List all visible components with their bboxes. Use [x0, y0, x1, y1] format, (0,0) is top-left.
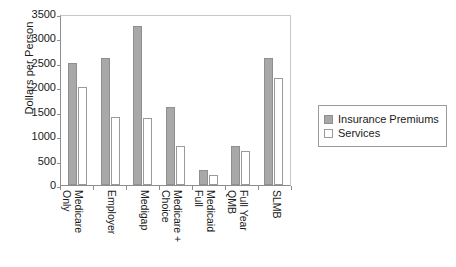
plot-area [60, 15, 291, 186]
legend-swatch-icon-services [324, 129, 333, 138]
x-category-label-line1: Medicaid [205, 190, 217, 267]
bar-group [94, 16, 127, 185]
y-tick-mark [57, 40, 61, 41]
bar-group [159, 16, 192, 185]
x-category-label-line1: Medicare + [172, 190, 184, 267]
x-category-label-line1: Employer [106, 190, 118, 267]
y-tick-mark [57, 114, 61, 115]
bar-services [78, 87, 87, 185]
bar-services [176, 146, 185, 185]
legend-item-services: Services [324, 127, 439, 139]
x-axis-category-labels: MedicareOnlyEmployerMedigapMedicare +Cho… [60, 190, 291, 267]
x-category-label-line2: Full [193, 190, 205, 267]
x-category-label-line2: Only [61, 190, 73, 267]
bar-insurance-premiums [133, 26, 142, 185]
bar-services [241, 151, 250, 185]
bar-group [61, 16, 94, 185]
x-category-label: Medicare +Choice [159, 190, 183, 267]
bar-insurance-premiums [199, 170, 208, 185]
x-category-label: Employer [93, 190, 117, 267]
y-tick-mark [57, 65, 61, 66]
bar-insurance-premiums [264, 58, 273, 185]
y-tick-label: 0 [50, 179, 56, 191]
bar-group [126, 16, 159, 185]
chart-figure: Dollars per Person 050010001500200025003… [0, 0, 456, 267]
y-tick-mark [57, 163, 61, 164]
chart-legend: Insurance Premiums Services [318, 105, 447, 147]
legend-label-services: Services [338, 127, 380, 139]
y-axis-tick-labels: 0500100015002000250030003500 [14, 14, 56, 186]
bar-insurance-premiums [166, 107, 175, 185]
x-category-label-line2: Choice [160, 190, 172, 267]
x-category-label: SLMB [258, 190, 282, 267]
x-category-label-line1: SLMB [271, 190, 283, 267]
bar-services [274, 78, 283, 185]
bar-services [111, 117, 120, 185]
legend-swatch-icon-premiums [324, 115, 333, 124]
x-tick-mark [291, 186, 292, 190]
x-category-label: MedicareOnly [60, 190, 84, 267]
legend-label-premiums: Insurance Premiums [338, 113, 439, 125]
y-tick-label: 500 [38, 155, 56, 167]
legend-item-insurance-premiums: Insurance Premiums [324, 113, 439, 125]
x-category-label: Medigap [126, 190, 150, 267]
bar-group [192, 16, 225, 185]
bar-group [257, 16, 290, 185]
bar-insurance-premiums [231, 146, 240, 185]
bar-group [225, 16, 258, 185]
bar-insurance-premiums [68, 63, 77, 185]
y-tick-label: 2500 [32, 57, 56, 69]
bar-groups [61, 16, 290, 185]
y-tick-mark [57, 89, 61, 90]
x-category-label: Full YearQMB [225, 190, 249, 267]
y-tick-label: 2000 [32, 81, 56, 93]
y-tick-mark [57, 138, 61, 139]
y-tick-label: 1500 [32, 106, 56, 118]
y-tick-label: 3000 [32, 32, 56, 44]
bar-services [209, 175, 218, 185]
y-tick-mark [57, 16, 61, 17]
x-category-label-line2: QMB [226, 190, 238, 267]
x-category-label-line1: Medigap [139, 190, 151, 267]
y-tick-label: 1000 [32, 130, 56, 142]
x-category-label-line1: Medicare [73, 190, 85, 267]
x-category-label: MedicaidFull [192, 190, 216, 267]
y-tick-label: 3500 [32, 8, 56, 20]
x-category-label-line1: Full Year [238, 190, 250, 267]
bar-insurance-premiums [101, 58, 110, 185]
bar-services [143, 118, 152, 185]
